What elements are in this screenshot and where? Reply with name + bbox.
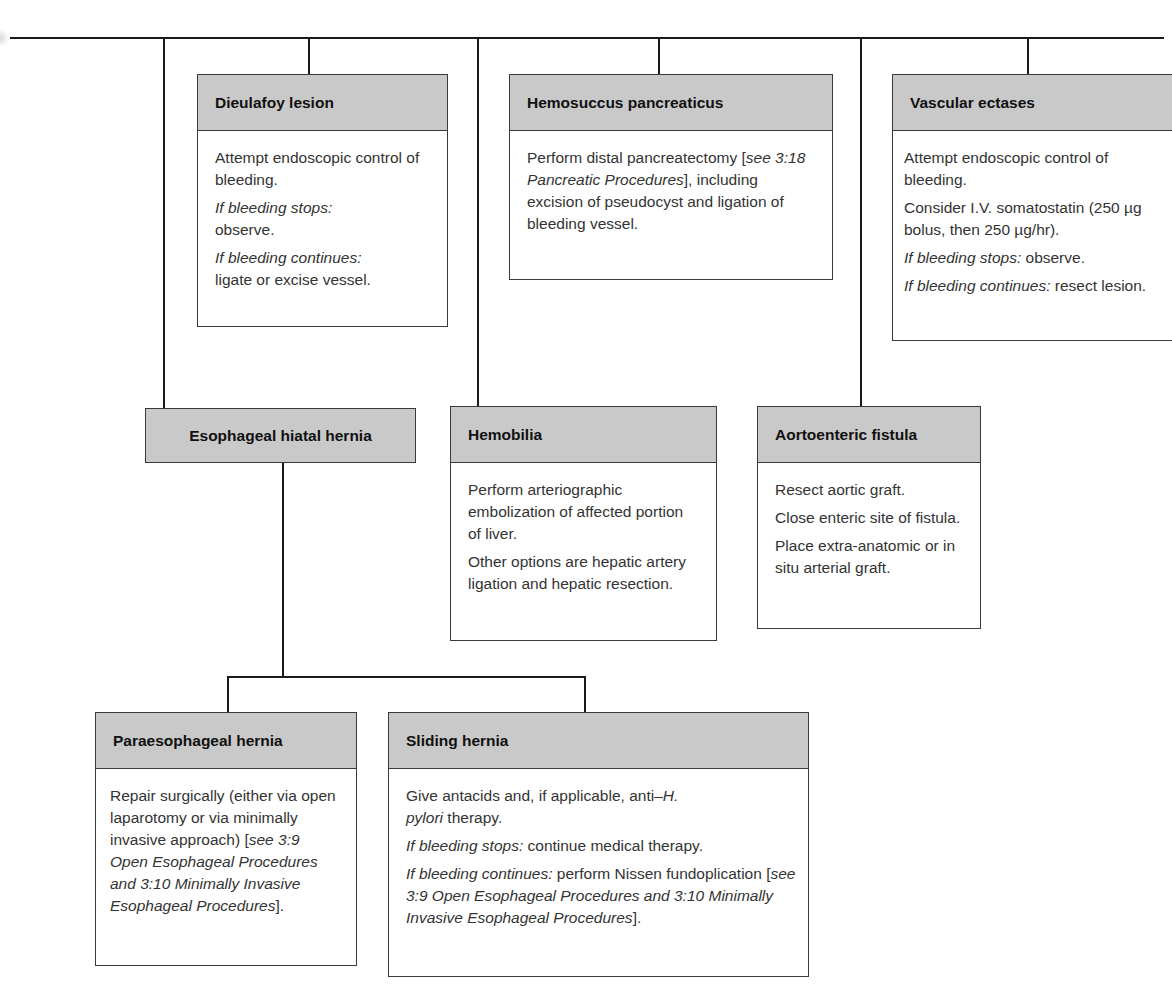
node-header: Hemobilia [451,407,716,463]
condition-stops: If bleeding stops: continue medical ther… [406,835,800,857]
node-body: Attempt endoscopic control of bleeding. … [198,131,447,291]
condition-continues: If bleeding continues: resect lesion. [904,275,1164,297]
instruction: Attempt endoscopic control of bleeding. [904,147,1144,191]
connector-to-aortoenteric [860,37,862,406]
node-vascular-ectases: Vascular ectases Attempt endoscopic cont… [892,74,1172,341]
node-aortoenteric-fistula: Aortoenteric fistula Resect aortic graft… [757,406,981,629]
node-title: Hemosuccus pancreaticus [527,94,723,112]
node-title: Vascular ectases [910,94,1035,112]
node-header: Hemosuccus pancreaticus [510,75,832,131]
node-body: Attempt endoscopic control of bleeding. … [893,131,1172,297]
node-body: Resect aortic graft. Close enteric site … [758,463,980,579]
node-sliding-hernia: Sliding hernia Give antacids and, if app… [388,712,809,977]
alternative-options: Other options are hepatic artery ligatio… [468,551,699,595]
connector-to-hemobilia [477,37,479,406]
node-title: Aortoenteric fistula [775,426,917,444]
instruction: Repair surgically (either via open lapar… [110,785,339,917]
instruction: Attempt endoscopic control of bleeding. [215,147,430,191]
connector-to-hiatal-hernia [163,37,165,408]
instruction-resect: Resect aortic graft. [775,479,963,501]
node-header: Dieulafoy lesion [198,75,447,131]
instruction: Perform distal pancreatectomy [see 3:18 … [527,147,815,235]
node-title: Paraesophageal hernia [113,732,283,750]
node-title: Dieulafoy lesion [215,94,334,112]
node-body: Give antacids and, if applicable, anti–H… [389,769,808,929]
top-connector-bar [10,37,1164,39]
connector-hernia-split [227,676,586,678]
connector-to-vascular-ectases [1027,37,1029,74]
connector-to-paraesophageal [227,676,229,713]
node-title: Sliding hernia [406,732,508,750]
node-esophageal-hiatal-hernia: Esophageal hiatal hernia [145,408,416,463]
connector-to-dieulafoy [308,37,310,74]
condition-continues: If bleeding continues: ligate or excise … [215,247,430,291]
node-body: Repair surgically (either via open lapar… [96,769,356,917]
node-body: Perform distal pancreatectomy [see 3:18 … [510,131,832,235]
node-body: Perform arteriographic embolization of a… [451,463,716,595]
condition-stops: If bleeding stops: observe. [904,247,1172,269]
instruction: Perform arteriographic embolization of a… [468,479,699,545]
instruction: Give antacids and, if applicable, anti–H… [406,785,706,829]
instruction-close: Close enteric site of fistula. [775,507,963,529]
node-hemosuccus-pancreaticus: Hemosuccus pancreaticus Perform distal p… [509,74,833,280]
condition-continues: If bleeding continues: perform Nissen fu… [406,863,800,929]
node-title: Hemobilia [468,426,542,444]
connector-to-hemosuccus [658,37,660,74]
node-header: Paraesophageal hernia [96,713,356,769]
node-dieulafoy-lesion: Dieulafoy lesion Attempt endoscopic cont… [197,74,448,327]
node-header: Aortoenteric fistula [758,407,980,463]
connector-hiatal-down [282,462,284,678]
condition-stops: If bleeding stops: observe. [215,197,430,241]
node-header: Sliding hernia [389,713,808,769]
connector-to-sliding [584,676,586,713]
scan-edge-artifact [0,30,10,46]
instruction-graft: Place extra-anatomic or in situ arterial… [775,535,963,579]
node-hemobilia: Hemobilia Perform arteriographic emboliz… [450,406,717,641]
node-title: Esophageal hiatal hernia [189,427,372,445]
node-paraesophageal-hernia: Paraesophageal hernia Repair surgically … [95,712,357,966]
node-header: Vascular ectases [893,75,1172,131]
instruction-somatostatin: Consider I.V. somatostatin (250 µg bolus… [904,197,1172,241]
